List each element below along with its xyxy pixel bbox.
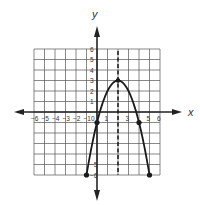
y-axis-up-arrow-icon <box>94 26 100 37</box>
y-tick-label: 3 <box>90 77 94 84</box>
x-tick-label: 5 <box>147 115 151 122</box>
x-tick-label: 1 <box>105 115 109 122</box>
data-point <box>116 78 121 83</box>
parabola-graph: xy−6−5−4−3−2−101356654321−5−6 <box>0 0 200 205</box>
y-tick-label: −5 <box>90 161 98 168</box>
y-tick-label: 1 <box>90 98 94 105</box>
x-tick-label: −4 <box>52 115 60 122</box>
x-tick-label: 6 <box>157 115 161 122</box>
x-tick-label: 0 <box>91 115 95 122</box>
data-point <box>147 172 152 177</box>
x-axis-left-arrow-icon <box>14 109 24 115</box>
data-point <box>136 120 141 125</box>
x-tick-label: −3 <box>63 115 71 122</box>
x-tick-label: 3 <box>126 115 130 122</box>
x-axis-right-arrow-icon <box>172 109 182 115</box>
y-tick-label: 6 <box>90 46 94 53</box>
x-tick-label: −5 <box>42 115 50 122</box>
y-tick-label: 4 <box>90 67 94 74</box>
y-axis-down-arrow-icon <box>94 190 100 201</box>
coordinate-plane: xy−6−5−4−3−2−101356654321−5−6 <box>0 0 200 205</box>
y-tick-label: 2 <box>90 88 94 95</box>
x-tick-label: −6 <box>31 115 39 122</box>
x-axis-label: x <box>187 106 194 118</box>
y-tick-label: 5 <box>90 56 94 63</box>
data-point <box>94 120 99 125</box>
x-tick-label: −2 <box>73 115 81 122</box>
data-point <box>84 172 89 177</box>
y-tick-label: −6 <box>90 172 98 179</box>
y-axis-label: y <box>91 8 99 20</box>
